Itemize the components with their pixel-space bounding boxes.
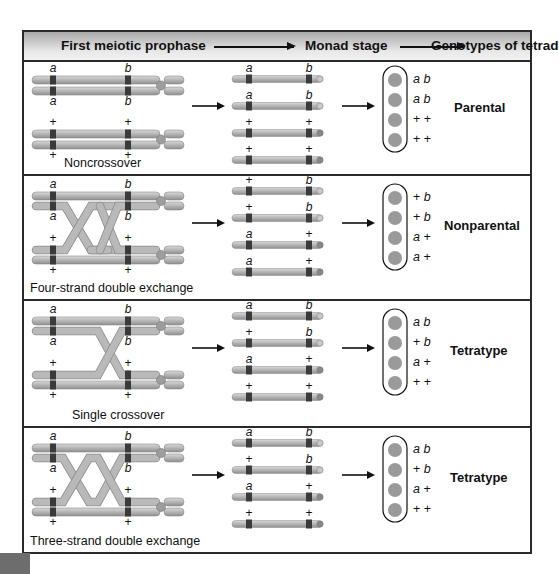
spore-genotype: + b: [413, 210, 431, 224]
svg-text:b: b: [125, 302, 132, 316]
spore-genotype: + +: [413, 375, 431, 389]
svg-text:a: a: [246, 352, 253, 366]
spore-genotype: a b: [413, 92, 430, 106]
svg-text:a: a: [50, 461, 57, 475]
svg-text:+: +: [305, 352, 312, 366]
svg-text:+: +: [245, 115, 252, 129]
svg-text:+: +: [305, 115, 312, 129]
svg-text:+: +: [245, 176, 252, 187]
spore-icon: [388, 73, 402, 87]
svg-text:b: b: [306, 88, 313, 102]
svg-text:b: b: [125, 334, 132, 348]
arrow-right-icon: [192, 102, 225, 110]
svg-text:b: b: [306, 325, 313, 339]
svg-text:a: a: [50, 177, 57, 191]
spore-icon: [388, 231, 402, 245]
svg-text:a: a: [246, 428, 253, 439]
spore-genotype: a b: [413, 72, 430, 86]
svg-text:b: b: [125, 61, 132, 75]
crossover-caption: Four-strand double exchange: [30, 281, 193, 295]
spore-icon: [388, 503, 402, 517]
svg-text:+: +: [305, 227, 312, 241]
spore-genotype: a b: [413, 442, 430, 456]
crossover-caption: Three-strand double exchange: [30, 534, 200, 548]
svg-text:a: a: [50, 429, 57, 443]
spore-genotype: a +: [413, 482, 431, 496]
svg-text:+: +: [49, 356, 56, 370]
svg-text:+: +: [124, 515, 131, 529]
spore-icon: [388, 356, 402, 370]
svg-text:+: +: [245, 379, 252, 393]
svg-text:b: b: [306, 61, 313, 75]
spore-icon: [388, 376, 402, 390]
svg-text:+: +: [305, 254, 312, 268]
svg-text:a: a: [246, 254, 253, 268]
svg-text:+: +: [124, 263, 131, 277]
arrow-right-icon: [342, 219, 375, 227]
spore-genotype: + b: [413, 190, 431, 204]
tetrad-analysis-figure: First meiotic prophase Monad stage Genot…: [22, 30, 532, 554]
arrow-right-icon: [342, 102, 375, 110]
spore-icon: [388, 191, 402, 205]
tetrad-type-label: Nonparental: [444, 218, 520, 233]
svg-text:a: a: [50, 209, 57, 223]
svg-text:a: a: [246, 301, 253, 312]
svg-text:a: a: [246, 479, 253, 493]
svg-text:a: a: [50, 94, 57, 108]
svg-text:+: +: [49, 483, 56, 497]
spore-genotype: a +: [413, 355, 431, 369]
spore-genotype: a b: [413, 315, 430, 329]
tetrad-row-nonparental: abab+++++b+ba+a++ b+ ba +a +NonparentalF…: [24, 176, 530, 301]
svg-text:b: b: [125, 209, 132, 223]
svg-text:+: +: [245, 200, 252, 214]
spore-icon: [388, 211, 402, 225]
spore-icon: [388, 113, 402, 127]
svg-text:+: +: [124, 388, 131, 402]
svg-text:+: +: [305, 142, 312, 156]
svg-text:b: b: [125, 429, 132, 443]
svg-text:+: +: [49, 148, 56, 162]
svg-text:a: a: [246, 61, 253, 75]
svg-text:+: +: [245, 325, 252, 339]
svg-text:a: a: [246, 88, 253, 102]
arrow-right-icon: [192, 219, 225, 227]
svg-text:+: +: [245, 506, 252, 520]
spore-icon: [388, 463, 402, 477]
spore-icon: [388, 93, 402, 107]
crossover-caption: Noncrossover: [64, 156, 141, 170]
figure-header: First meiotic prophase Monad stage Genot…: [24, 32, 530, 62]
tetrad-type-label: Tetratype: [450, 343, 508, 358]
spore-icon: [388, 483, 402, 497]
spore-genotype: + b: [413, 462, 431, 476]
tetrad-row-parental: abab++++abab++++a ba b+ ++ +ParentalNonc…: [24, 60, 530, 176]
svg-text:a: a: [50, 302, 57, 316]
svg-text:b: b: [125, 94, 132, 108]
svg-text:+: +: [124, 115, 131, 129]
arrow-right-icon: [192, 471, 225, 479]
svg-text:+: +: [124, 356, 131, 370]
svg-text:b: b: [306, 452, 313, 466]
header-arrow-icon: [214, 46, 294, 48]
svg-text:b: b: [306, 176, 313, 187]
svg-text:+: +: [49, 115, 56, 129]
svg-text:+: +: [49, 388, 56, 402]
svg-text:+: +: [245, 452, 252, 466]
header-monad-stage: Monad stage: [305, 38, 388, 53]
tetrad-type-label: Tetratype: [450, 470, 508, 485]
svg-text:+: +: [305, 479, 312, 493]
svg-text:a: a: [50, 61, 57, 75]
svg-text:+: +: [49, 263, 56, 277]
svg-text:+: +: [305, 379, 312, 393]
svg-text:a: a: [50, 334, 57, 348]
spore-icon: [388, 251, 402, 265]
svg-text:+: +: [124, 483, 131, 497]
tetrad-row-tetratype: abab++++ab+ba+++a b+ ba ++ +TetratypeSin…: [24, 301, 530, 428]
corner-tab: [0, 553, 30, 574]
svg-text:+: +: [305, 506, 312, 520]
spore-genotype: + +: [413, 502, 431, 516]
svg-text:a: a: [246, 227, 253, 241]
arrow-right-icon: [342, 344, 375, 352]
svg-text:+: +: [124, 231, 131, 245]
tetrad-row-tetratype: abab++++ab+ba+++a b+ ba ++ +TetratypeThr…: [24, 428, 530, 554]
header-first-meiotic-prophase: First meiotic prophase: [61, 38, 206, 53]
